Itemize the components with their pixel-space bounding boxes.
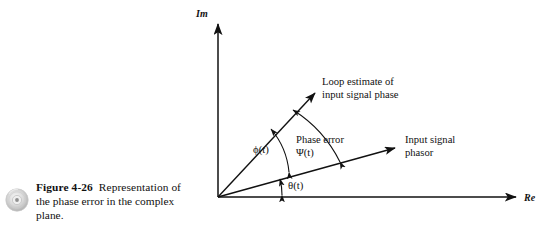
input-signal-phasor-label-line-1: Input signal — [405, 134, 455, 145]
theta-angle-label: θ(t) — [288, 179, 304, 192]
real-axis-label: Re — [523, 192, 536, 203]
phi-angle-label: ϕ(t) — [253, 143, 269, 156]
phase-error-label-line-2: Ψ(t) — [296, 147, 314, 159]
theta-angle-arc — [280, 179, 282, 195]
imaginary-axis-label: Im — [195, 8, 208, 19]
phasor-diagram: Im Re ϕ(t) θ(t) Phase error Ψ(t) Loop es… — [0, 0, 552, 243]
input-signal-phasor-label-line-2: phasor — [405, 147, 434, 158]
phi-angle-arc — [271, 129, 289, 172]
loop-estimate-label-line-1: Loop estimate of — [322, 76, 394, 87]
loop-estimate-label-line-2: input signal phase — [322, 89, 399, 100]
phase-error-label-line-1: Phase error — [296, 134, 344, 145]
figure-container: Figure 4-26 Representation of the phase … — [0, 0, 552, 243]
